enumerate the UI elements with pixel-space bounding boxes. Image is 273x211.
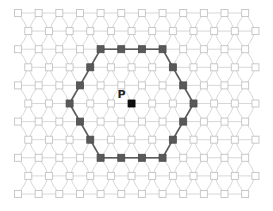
lattice-node <box>169 172 176 179</box>
lattice-node <box>107 100 114 107</box>
lattice-node <box>200 154 207 161</box>
lattice-node <box>15 118 22 125</box>
lattice-node <box>138 82 145 89</box>
lattice-node <box>169 100 176 107</box>
triangular-lattice-diagram <box>0 0 273 211</box>
lattice-node <box>242 154 249 161</box>
lattice-node <box>45 100 52 107</box>
lattice-node <box>149 100 156 107</box>
hexagon-node <box>159 46 166 53</box>
lattice-node <box>149 64 156 71</box>
lattice-node <box>242 10 249 17</box>
lattice-node <box>231 28 238 35</box>
lattice-node <box>252 172 259 179</box>
lattice-node <box>25 64 32 71</box>
lattice-node <box>149 136 156 143</box>
lattice-node <box>211 172 218 179</box>
lattice-node <box>159 191 166 198</box>
lattice-node <box>35 154 42 161</box>
lattice-node <box>87 100 94 107</box>
lattice-node <box>252 100 259 107</box>
hexagon-node <box>169 64 176 71</box>
center-label-p: P <box>118 88 126 101</box>
lattice-node <box>242 82 249 89</box>
lattice-node <box>180 191 187 198</box>
lattice-node <box>221 154 228 161</box>
hexagon-node <box>169 136 176 143</box>
lattice-node <box>97 10 104 17</box>
lattice-node <box>35 82 42 89</box>
hexagon-node <box>190 100 197 107</box>
lattice-node <box>118 10 125 17</box>
hexagon-node <box>180 118 187 125</box>
lattice-node <box>252 28 259 35</box>
lattice-node <box>66 28 73 35</box>
hexagon-node <box>97 154 104 161</box>
lattice-node <box>56 191 63 198</box>
lattice-node <box>15 46 22 53</box>
lattice-node <box>180 46 187 53</box>
lattice-node <box>107 28 114 35</box>
lattice-node <box>15 154 22 161</box>
lattice-node <box>76 154 83 161</box>
hexagon-node <box>97 46 104 53</box>
lattice-node <box>221 118 228 125</box>
lattice-node <box>242 46 249 53</box>
lattice-node <box>159 118 166 125</box>
lattice-node <box>180 10 187 17</box>
hexagon-node <box>138 154 145 161</box>
lattice-node <box>231 136 238 143</box>
lattice-node <box>107 172 114 179</box>
lattice-node <box>56 46 63 53</box>
lattice-node <box>128 136 135 143</box>
lattice-node <box>190 136 197 143</box>
lattice-node <box>200 82 207 89</box>
hexagon-node <box>180 82 187 89</box>
lattice-node <box>138 118 145 125</box>
hexagon-node <box>159 154 166 161</box>
lattice-node <box>200 118 207 125</box>
lattice-node <box>97 191 104 198</box>
lattice-node <box>45 136 52 143</box>
lattice-node <box>56 82 63 89</box>
lattice-node <box>149 28 156 35</box>
hexagon-node <box>66 100 73 107</box>
lattice-node <box>35 118 42 125</box>
hexagon-node <box>76 82 83 89</box>
lattice-node <box>56 154 63 161</box>
hexagon-node <box>87 136 94 143</box>
lattice-node <box>15 191 22 198</box>
center-node-p <box>128 100 135 107</box>
lattice-node <box>138 191 145 198</box>
lattice-node <box>221 82 228 89</box>
lattice-node <box>169 28 176 35</box>
lattice-node <box>35 46 42 53</box>
lattice-node <box>107 136 114 143</box>
lattice-node <box>200 10 207 17</box>
hexagon-node <box>87 64 94 71</box>
lattice-node <box>221 191 228 198</box>
lattice-node <box>66 64 73 71</box>
lattice-node <box>211 136 218 143</box>
lattice-node <box>97 82 104 89</box>
lattice-node <box>56 10 63 17</box>
lattice-node <box>118 191 125 198</box>
lattice-node <box>107 64 114 71</box>
lattice-node <box>76 46 83 53</box>
lattice-node <box>211 28 218 35</box>
lattice-node <box>242 118 249 125</box>
lattice-node <box>97 118 104 125</box>
lattice-node <box>200 191 207 198</box>
lattice-node <box>211 64 218 71</box>
lattice-node <box>221 10 228 17</box>
lattice-node <box>252 64 259 71</box>
lattice-node <box>35 10 42 17</box>
lattice-node <box>242 191 249 198</box>
lattice-node <box>87 172 94 179</box>
lattice-node <box>66 172 73 179</box>
lattice-node <box>66 136 73 143</box>
hexagon-node <box>118 154 125 161</box>
lattice-node <box>25 28 32 35</box>
lattice-node <box>87 28 94 35</box>
lattice-node <box>25 172 32 179</box>
